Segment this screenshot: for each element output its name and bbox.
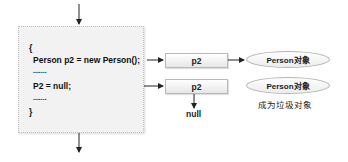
garbage-label: 成为垃圾对象 [258,98,312,110]
code-line-open-brace: { [29,43,32,53]
person-object-node: Person对象 [246,51,330,68]
code-line-close-brace: } [29,107,32,117]
code-block: { Person p2 = new Person(); ....... P2 =… [18,26,144,133]
reference-box-p2-null: p2 [165,79,228,94]
code-line-null-assign: P2 = null; [33,81,71,91]
null-label: null [186,109,201,119]
code-line-ellipsis: ....... [33,94,47,101]
code-line-new-person: Person p2 = new Person(); [33,55,140,65]
person-object-node-garbage: Person对象 [246,77,330,94]
code-line-ellipsis: ....... [33,67,47,74]
reference-box-p2: p2 [165,53,228,68]
